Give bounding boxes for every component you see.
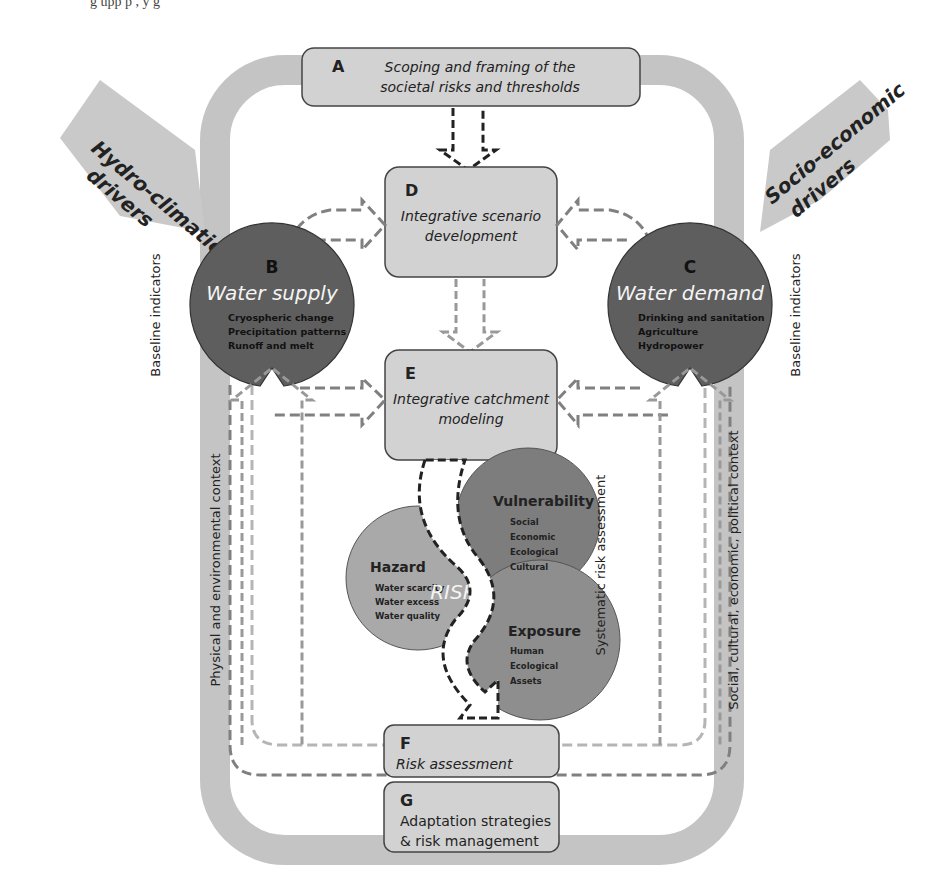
svg-text:C: C: [684, 257, 696, 277]
svg-text:Hydropower: Hydropower: [638, 340, 704, 351]
socio-economic-drivers: Socio-economic drivers: [760, 73, 932, 232]
box-f-risk-assessment[interactable]: F Risk assessment: [384, 725, 559, 777]
svg-text:Runoff and melt: Runoff and melt: [228, 340, 314, 351]
svg-text:Hazard: Hazard: [370, 559, 426, 575]
svg-text:B: B: [266, 257, 279, 277]
svg-text:Precipitation patterns: Precipitation patterns: [228, 326, 347, 337]
circle-b-water-supply[interactable]: B Water supply Cryospheric change Precip…: [190, 223, 354, 386]
svg-text:D: D: [405, 181, 418, 200]
caption-fragment: g upp p , y g: [90, 0, 160, 9]
svg-text:Scoping and framing of the: Scoping and framing of the: [385, 59, 576, 75]
box-e-catchment[interactable]: E Integrative catchment modeling: [385, 350, 557, 460]
svg-text:Drinking and sanitation: Drinking and sanitation: [638, 312, 765, 323]
svg-text:Ecological: Ecological: [510, 661, 558, 671]
box-g-adaptation[interactable]: G Adaptation strategies & risk managemen…: [384, 782, 559, 852]
svg-text:societal risks and thresholds: societal risks and thresholds: [380, 79, 580, 95]
svg-text:Risk assessment: Risk assessment: [396, 756, 513, 772]
svg-text:Cryospheric change: Cryospheric change: [228, 312, 334, 323]
svg-text:Integrative scenario: Integrative scenario: [401, 208, 541, 224]
svg-text:Ecological: Ecological: [510, 547, 558, 557]
arrow-d-to-e: [443, 279, 497, 352]
svg-text:E: E: [405, 364, 416, 383]
box-d-scenario[interactable]: D Integrative scenario development: [385, 167, 557, 277]
social-context-label: Social, cultural, economic, political co…: [726, 430, 741, 709]
svg-text:Vulnerability: Vulnerability: [493, 493, 594, 509]
svg-text:Exposure: Exposure: [508, 623, 581, 639]
svg-text:modeling: modeling: [438, 411, 503, 427]
svg-text:Water demand: Water demand: [616, 281, 764, 305]
svg-text:Agriculture: Agriculture: [638, 326, 698, 337]
svg-text:Assets: Assets: [510, 676, 542, 686]
box-a-letter: A: [332, 57, 345, 76]
baseline-indicators-right: Baseline indicators: [788, 253, 803, 376]
framework-diagram: g upp p , y g Hydro-climatic drivers Soc…: [0, 0, 940, 877]
circle-c-water-demand[interactable]: C Water demand Drinking and sanitation A…: [608, 223, 772, 386]
physical-context-label: Physical and environmental context: [208, 453, 223, 686]
svg-text:Water quality: Water quality: [375, 611, 441, 621]
svg-text:development: development: [425, 228, 518, 244]
svg-text:Integrative catchment: Integrative catchment: [393, 391, 550, 407]
box-a-scoping[interactable]: A Scoping and framing of the societal ri…: [302, 48, 640, 106]
svg-text:F: F: [400, 734, 411, 753]
arrow-a-to-d: [440, 108, 496, 170]
svg-text:Human: Human: [510, 646, 544, 656]
svg-text:Water supply: Water supply: [206, 281, 339, 305]
svg-text:G: G: [400, 791, 413, 810]
systematic-risk-label: Systematic risk assessment: [593, 475, 608, 656]
svg-text:Cultural: Cultural: [510, 562, 548, 572]
svg-text:Adaptation strategies: Adaptation strategies: [400, 813, 551, 829]
svg-text:& risk management: & risk management: [400, 833, 539, 849]
svg-text:Social: Social: [510, 517, 539, 527]
svg-text:Economic: Economic: [510, 532, 555, 542]
baseline-indicators-left: Baseline indicators: [148, 253, 163, 376]
